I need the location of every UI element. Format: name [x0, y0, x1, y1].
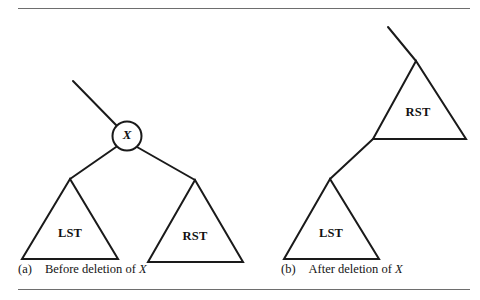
panel-b-caption-variable: X: [395, 262, 403, 276]
panel-b-rst-triangle: [373, 61, 466, 139]
panel-a-left-edge: [70, 146, 118, 179]
panel-a-caption-text: Before deletion of: [45, 262, 139, 276]
panel-b-caption: (b)After deletion of X: [281, 262, 403, 277]
panel-b-lst-label: LST: [319, 226, 344, 240]
panel-b-rst-label: RST: [406, 105, 431, 119]
panel-a-parent-edge: [73, 81, 118, 127]
panel-a-caption: (a)Before deletion of X: [18, 262, 147, 277]
panel-a-caption-variable: X: [139, 262, 147, 276]
panel-a-diagram: X LST RST: [22, 81, 243, 262]
panel-b-lst-triangle: [284, 179, 379, 259]
panel-a-caption-tag: (a): [18, 262, 32, 276]
panel-b-parent-edge: [388, 27, 416, 61]
panel-b-link-edge: [330, 139, 373, 179]
panel-a-lst-triangle: [22, 179, 118, 259]
panel-b-caption-tag: (b): [281, 262, 296, 276]
panel-a-rst-label: RST: [183, 229, 208, 243]
panel-b-caption-text: After deletion of: [309, 262, 395, 276]
panel-a-node-x-label: X: [122, 127, 132, 142]
figure-canvas: X LST RST RST LST: [0, 0, 480, 300]
panel-a-lst-label: LST: [58, 226, 83, 240]
figure-container: X LST RST RST LST (a)Before deletion of: [0, 0, 480, 300]
panel-a-right-edge: [137, 147, 195, 180]
panel-b-diagram: RST LST: [284, 27, 466, 259]
panel-a-rst-triangle: [148, 180, 243, 262]
